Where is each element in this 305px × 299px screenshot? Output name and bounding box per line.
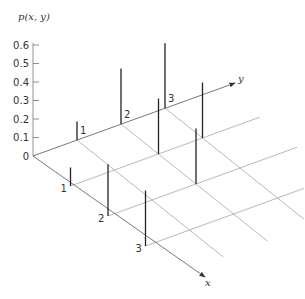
stems: [71, 43, 203, 246]
y-tick-label: 1: [80, 125, 86, 136]
z-tick-label: 0.3: [13, 95, 29, 106]
grid: [71, 108, 305, 257]
z-tick-label: 0: [23, 151, 29, 162]
y-tick-label: 3: [168, 93, 174, 104]
y-axis: [33, 83, 235, 156]
x-tick-label: 2: [98, 213, 104, 224]
z-tick-label: 0.4: [13, 77, 29, 88]
z-tick-label: 0.2: [13, 114, 29, 125]
z-tick-label: 0.6: [13, 40, 29, 51]
z-tick-label: 0.1: [13, 132, 29, 143]
z-tick-label: 0.5: [13, 58, 29, 69]
z-axis: 00.10.20.30.40.50.6: [13, 40, 39, 162]
x-tick-label: 3: [136, 243, 142, 254]
y-axis-label: y: [237, 73, 244, 84]
x-axis-label: x: [205, 277, 211, 288]
y-tick-label: 2: [124, 109, 130, 120]
x-tick-label: 1: [61, 183, 67, 194]
stem-chart-3d: p(x, y) 00.10.20.30.40.50.6 y x 123123: [0, 0, 304, 299]
x-axis: [33, 156, 205, 277]
z-axis-label: p(x, y): [18, 11, 50, 22]
